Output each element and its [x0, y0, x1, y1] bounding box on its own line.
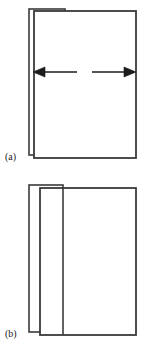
figure-container: (a) (b): [0, 0, 149, 348]
panel-b: (b): [5, 185, 136, 340]
panel-a: (a): [5, 9, 136, 163]
panel-a-front-rectangle: [34, 11, 136, 158]
panel-a-label: (a): [5, 151, 16, 163]
panel-b-front-rectangle: [40, 188, 136, 335]
figure-svg: (a) (b): [0, 0, 149, 348]
panel-b-label: (b): [5, 328, 17, 340]
